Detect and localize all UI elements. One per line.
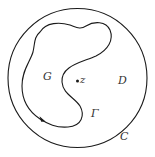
complex-region-diagram: G z D Γ C xyxy=(0,0,155,157)
diagram-canvas xyxy=(0,0,155,157)
label-region-d: D xyxy=(118,75,127,86)
point-z-dot xyxy=(76,80,79,83)
label-region-g: G xyxy=(43,71,52,82)
orientation-arrow-icon xyxy=(40,116,46,122)
label-circle-c: C xyxy=(120,131,128,142)
label-curve-gamma: Γ xyxy=(91,108,99,119)
label-point-z: z xyxy=(80,75,85,85)
